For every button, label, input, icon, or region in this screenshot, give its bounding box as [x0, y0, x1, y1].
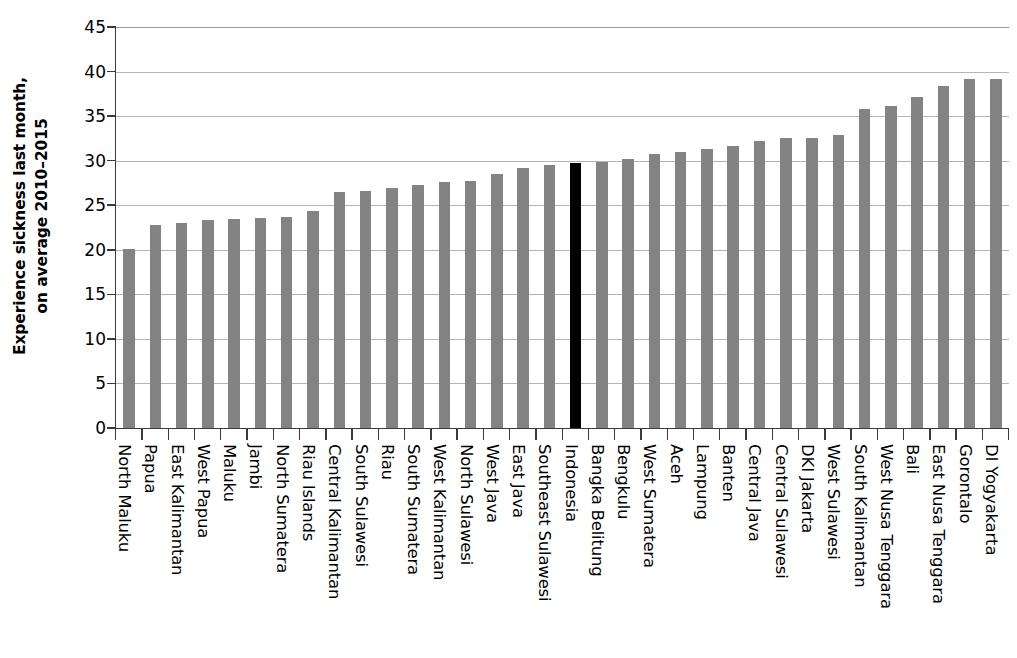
y-tick-label-5: 5	[58, 373, 106, 393]
bar-west-kalimantan	[439, 182, 451, 428]
chart-figure: Experience sickness last month, on avera…	[0, 0, 1017, 658]
bar-south-kalimantan	[859, 109, 871, 428]
x-label-south-sumatera: South Sumatera	[401, 444, 425, 644]
x-tick-mark-28	[850, 429, 851, 440]
bar-maluku	[228, 219, 240, 428]
x-tick-mark-8	[325, 429, 326, 440]
x-label-dki-jakarta: DKI Jakarta	[795, 444, 819, 644]
x-tick-mark-23	[719, 429, 720, 440]
y-tick-mark-25	[107, 204, 116, 206]
x-tick-mark-20	[640, 429, 641, 440]
x-label-south-kalimantan: South Kalimantan	[848, 444, 872, 644]
bar-southeast-sulawesi	[544, 165, 556, 428]
y-tick-mark-45	[107, 26, 116, 28]
x-tick-mark-33	[982, 429, 983, 440]
bar-series	[116, 27, 1009, 428]
x-label-east-nusa-tenggara: East Nusa Tenggara	[926, 444, 950, 644]
x-label-west-nusa-tenggara: West Nusa Tenggara	[874, 444, 898, 644]
bar-west-sumatera	[649, 154, 661, 428]
bar-papua	[150, 225, 162, 428]
y-tick-mark-15	[107, 294, 116, 296]
bar-north-maluku	[123, 249, 135, 428]
bar-banten	[727, 146, 739, 428]
x-label-aceh: Aceh	[664, 444, 688, 644]
x-tick-mark-34	[1008, 429, 1009, 440]
y-tick-label-35: 35	[58, 106, 106, 126]
x-tick-mark-7	[299, 429, 300, 440]
y-tick-mark-40	[107, 71, 116, 73]
x-axis-tick-labels: North MalukuPapuaEast KalimantanWest Pap…	[115, 440, 1010, 640]
y-tick-label-30: 30	[58, 151, 106, 171]
x-tick-mark-19	[614, 429, 615, 440]
x-tick-mark-22	[693, 429, 694, 440]
x-label-banten: Banten	[716, 444, 740, 644]
x-label-lampung: Lampung	[690, 444, 714, 644]
x-tick-mark-17	[562, 429, 563, 440]
bar-east-kalimantan	[176, 223, 188, 428]
y-tick-mark-30	[107, 160, 116, 162]
x-tick-mark-16	[535, 429, 536, 440]
y-tick-mark-10	[107, 338, 116, 340]
bar-gorontalo	[964, 79, 976, 428]
x-tick-mark-0	[115, 429, 116, 440]
x-tick-mark-31	[929, 429, 930, 440]
x-tick-mark-32	[955, 429, 956, 440]
bar-north-sumatera	[281, 217, 293, 428]
x-tick-mark-4	[220, 429, 221, 440]
y-tick-label-15: 15	[58, 284, 106, 304]
x-label-di-yogyakarta: DI Yogyakarta	[979, 444, 1003, 644]
y-axis-title-line-2: on average 2010–2015	[31, 77, 53, 355]
bar-riau-islands	[307, 211, 319, 428]
y-tick-mark-35	[107, 115, 116, 117]
x-label-maluku: Maluku	[217, 444, 241, 644]
x-tick-mark-29	[877, 429, 878, 440]
x-tick-mark-11	[404, 429, 405, 440]
bar-west-papua	[202, 220, 214, 428]
x-tick-mark-10	[378, 429, 379, 440]
x-label-bengkulu: Bengkulu	[611, 444, 635, 644]
y-axis-title: Experience sickness last month, on avera…	[0, 0, 62, 432]
x-label-indonesia: Indonesia	[559, 444, 583, 644]
x-tick-mark-9	[351, 429, 352, 440]
x-tick-mark-26	[798, 429, 799, 440]
bar-west-nusa-tenggara	[885, 106, 897, 428]
bar-south-sumatera	[412, 185, 424, 428]
x-label-bali: Bali	[900, 444, 924, 644]
bar-east-nusa-tenggara	[938, 86, 950, 428]
bar-central-sulawesi	[780, 138, 792, 429]
y-tick-label-20: 20	[58, 240, 106, 260]
bar-east-java	[517, 168, 529, 428]
x-label-riau: Riau	[375, 444, 399, 644]
x-label-central-java: Central Java	[742, 444, 766, 644]
y-tick-label-10: 10	[58, 329, 106, 349]
x-label-bangka-belitung: Bangka Belitung	[585, 444, 609, 644]
x-label-central-sulawesi: Central Sulawesi	[769, 444, 793, 644]
x-tick-mark-5	[246, 429, 247, 440]
x-label-north-sumatera: North Sumatera	[270, 444, 294, 644]
x-tick-mark-15	[509, 429, 510, 440]
x-label-west-kalimantan: West Kalimantan	[427, 444, 451, 644]
x-tick-mark-27	[824, 429, 825, 440]
x-label-east-java: East Java	[506, 444, 530, 644]
plot-area	[115, 27, 1009, 429]
bar-west-java	[491, 174, 503, 428]
bar-north-sulawesi	[465, 181, 477, 428]
x-label-gorontalo: Gorontalo	[953, 444, 977, 644]
y-axis-title-line-1: Experience sickness last month,	[9, 77, 31, 355]
y-tick-label-45: 45	[58, 17, 106, 37]
bar-indonesia	[570, 163, 582, 428]
bar-central-kalimantan	[334, 192, 346, 428]
y-tick-mark-20	[107, 249, 116, 251]
x-tick-mark-30	[903, 429, 904, 440]
x-label-north-sulawesi: North Sulawesi	[454, 444, 478, 644]
x-label-papua: Papua	[138, 444, 162, 644]
x-label-west-java: West Java	[480, 444, 504, 644]
x-label-west-papua: West Papua	[191, 444, 215, 644]
bar-lampung	[701, 149, 713, 428]
x-tick-mark-13	[456, 429, 457, 440]
x-tick-mark-25	[772, 429, 773, 440]
x-label-southeast-sulawesi: Southeast Sulawesi	[532, 444, 556, 644]
bar-bangka-belitung	[596, 162, 608, 428]
bar-south-sulawesi	[360, 191, 372, 428]
x-tick-mark-18	[588, 429, 589, 440]
